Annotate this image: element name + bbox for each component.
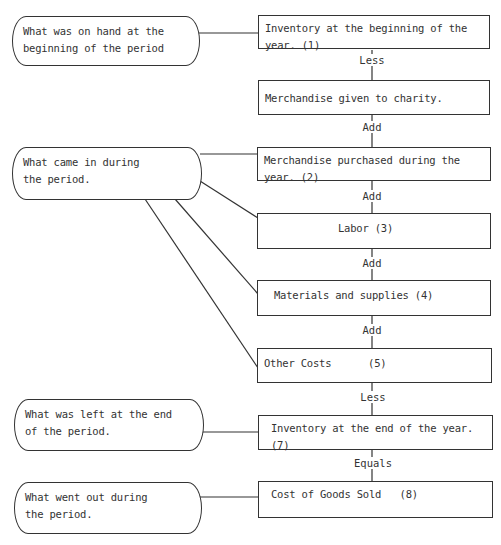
category-text: What came in during the period. <box>23 156 139 185</box>
step-box: Merchandise given to charity. <box>258 80 490 115</box>
step-box: Materials and supplies (4) <box>257 280 491 316</box>
operator-label: Add <box>342 324 402 336</box>
step-box: Other Costs (5) <box>257 348 492 383</box>
step-box: Merchandise purchased during the year. (… <box>257 147 491 181</box>
category-on-hand: What was on hand at the beginning of the… <box>12 16 200 66</box>
connector-came-in-3 <box>200 181 258 218</box>
connector-came-in-4 <box>175 199 258 294</box>
operator-label: Add <box>342 257 402 269</box>
category-went-out: What went out during the period. <box>14 482 202 534</box>
step-box: Labor (3) <box>257 213 491 249</box>
operator-label: Equals <box>343 457 403 469</box>
connector-came-in-5 <box>145 199 258 368</box>
operator-label: Add <box>342 190 402 202</box>
step-box: Inventory at the beginning of the year. … <box>258 15 490 49</box>
operator-label: Add <box>342 121 402 133</box>
category-text: What went out during the period. <box>25 491 147 520</box>
category-text: What was left at the end of the period. <box>25 408 172 437</box>
category-text: What was on hand at the beginning of the… <box>23 25 164 54</box>
operator-label: Less <box>343 391 403 403</box>
operator-label: Less <box>342 54 402 66</box>
category-left: What was left at the end of the period. <box>14 399 204 451</box>
step-box: Inventory at the end of the year. (7) <box>258 415 493 450</box>
step-box: Cost of Goods Sold (8) <box>258 481 493 518</box>
category-came-in: What came in during the period. <box>12 147 202 200</box>
